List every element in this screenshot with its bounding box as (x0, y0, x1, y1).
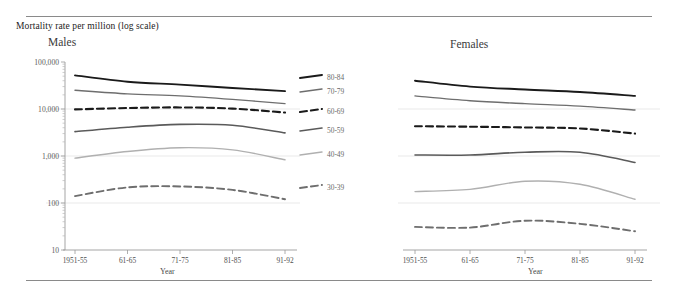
series-line-females-80-84 (415, 81, 635, 96)
y-tick-label-1000: 1,000 (42, 152, 59, 161)
legend-label-50-59: 50-59 (327, 126, 345, 135)
legend-swatch-60-69 (300, 109, 322, 112)
legend-label-60-69: 60-69 (327, 107, 345, 116)
x-tick-label-males-0: 1951-55 (63, 256, 88, 265)
y-tick-label-10: 10 (51, 246, 59, 255)
series-line-females-30-39 (415, 221, 635, 232)
legend-label-70-79: 70-79 (327, 87, 345, 96)
x-tick-label-females-3: 81-85 (571, 256, 589, 265)
legend-swatch-40-49 (300, 152, 322, 155)
x-tick-label-males-1: 61-65 (119, 256, 137, 265)
series-line-females-70-79 (415, 96, 635, 110)
series-line-males-30-39 (75, 186, 285, 199)
chart-canvas: 100,00010,0001,000100101951-5561-6571-75… (0, 0, 674, 288)
legend-swatch-70-79 (300, 89, 322, 92)
x-tick-label-males-3: 81-85 (224, 256, 242, 265)
series-line-males-80-84 (75, 75, 285, 91)
x-tick-label-females-4: 91-92 (626, 256, 644, 265)
legend-label-80-84: 80-84 (327, 73, 345, 82)
mortality-rate-figure: Mortality rate per million (log scale) M… (0, 0, 674, 288)
x-tick-label-males-2: 71-75 (171, 256, 189, 265)
legend-swatch-50-59 (300, 128, 322, 131)
series-line-females-40-49 (415, 181, 635, 199)
x-tick-label-females-2: 71-75 (516, 256, 534, 265)
x-tick-label-females-1: 61-65 (461, 256, 479, 265)
legend-swatch-80-84 (300, 75, 322, 78)
y-tick-label-100: 100 (48, 199, 60, 208)
y-tick-label-10000: 10,000 (38, 105, 59, 114)
legend-label-30-39: 30-39 (327, 183, 345, 192)
series-line-males-70-79 (75, 90, 285, 103)
series-line-females-60-69 (415, 126, 635, 133)
x-tick-label-males-4: 91-92 (276, 256, 294, 265)
series-line-males-60-69 (75, 107, 285, 112)
legend-swatch-30-39 (300, 185, 322, 188)
series-line-males-50-59 (75, 124, 285, 133)
y-tick-label-100000: 100,000 (34, 58, 59, 67)
legend-label-40-49: 40-49 (327, 150, 345, 159)
x-tick-label-females-0: 1951-55 (403, 256, 428, 265)
series-line-females-50-59 (415, 151, 635, 162)
series-line-males-40-49 (75, 148, 285, 160)
